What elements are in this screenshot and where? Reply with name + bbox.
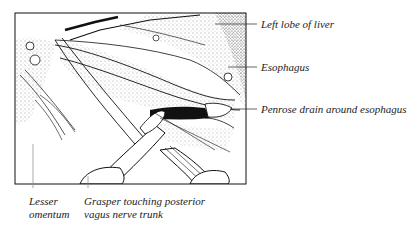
label-penrose-drain: Penrose drain around esophagus [261, 103, 407, 115]
illustration-body [15, 13, 246, 184]
label-left-lobe-liver: Left lobe of liver [261, 18, 334, 30]
label-esophagus: Esophagus [261, 61, 309, 73]
label-grasper-1: Grasper touching posterior [84, 195, 205, 207]
label-grasper-2: vagus nerve trunk [84, 208, 163, 220]
label-lesser-omentum-1: Lesser [29, 195, 58, 207]
label-lesser-omentum-2: omentum [29, 208, 69, 220]
